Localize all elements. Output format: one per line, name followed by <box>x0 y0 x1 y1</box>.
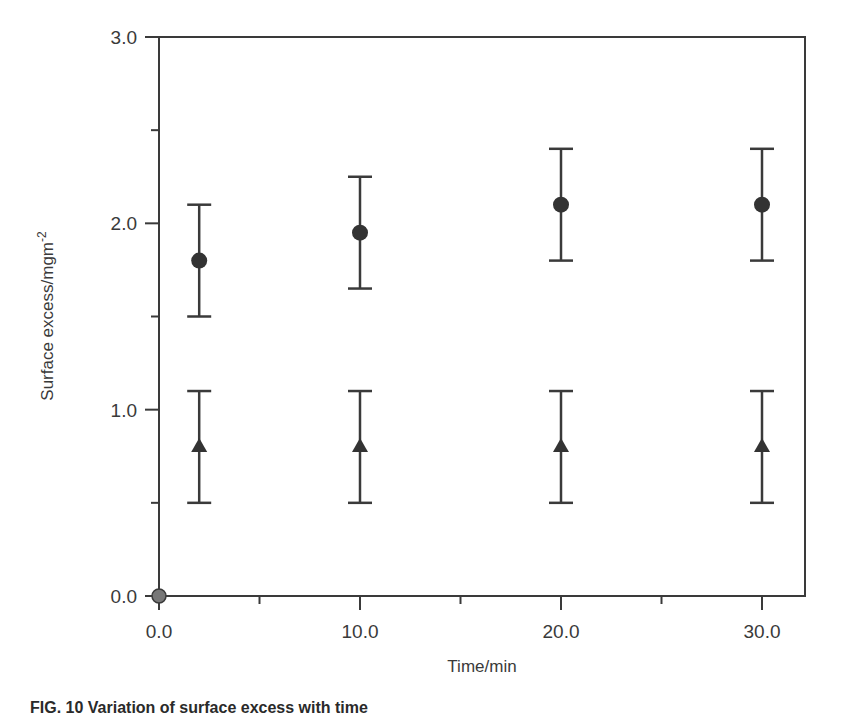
x-axis-label: Time/min <box>447 657 516 676</box>
x-tick-label: 20.0 <box>543 621 580 642</box>
y-axis-label: Surface excess/mgm-2 <box>35 231 57 401</box>
series-origin <box>152 589 166 603</box>
x-tick-label: 10.0 <box>342 621 379 642</box>
triangle-marker <box>191 438 207 452</box>
y-tick-label: 1.0 <box>111 400 137 421</box>
axis-ticks <box>145 37 762 610</box>
circle-marker <box>352 225 368 241</box>
x-tick-label: 30.0 <box>744 621 781 642</box>
circle-marker <box>754 197 770 213</box>
plot-border <box>159 37 805 596</box>
y-tick-label: 0.0 <box>111 586 137 607</box>
series-circles <box>187 149 774 317</box>
triangle-marker <box>754 438 770 452</box>
circle-marker <box>553 197 569 213</box>
circle-marker <box>191 253 207 269</box>
figure-caption: FIG. 10 Variation of surface excess with… <box>30 699 368 717</box>
y-tick-label: 2.0 <box>111 213 137 234</box>
plot-frame <box>159 37 805 596</box>
data-series <box>152 149 774 603</box>
series-triangles <box>187 391 774 503</box>
tick-labels: 0.01.02.03.00.010.020.030.0 <box>111 27 781 642</box>
triangle-marker <box>352 438 368 452</box>
origin-marker <box>152 589 166 603</box>
x-tick-label: 0.0 <box>146 621 172 642</box>
y-tick-label: 3.0 <box>111 27 137 48</box>
triangle-marker <box>553 438 569 452</box>
